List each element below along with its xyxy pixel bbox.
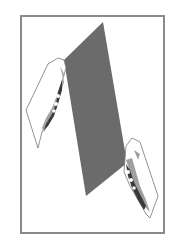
right-hand-icon <box>124 138 158 218</box>
illustration <box>0 0 183 244</box>
sheet-shape <box>64 22 127 196</box>
left-hand-icon <box>26 58 66 148</box>
